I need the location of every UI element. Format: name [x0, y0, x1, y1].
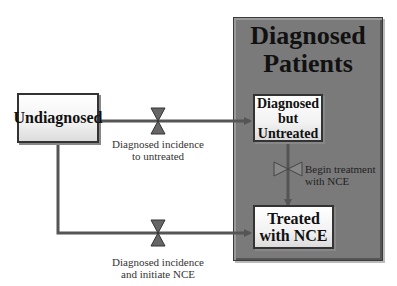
- flow-label-to-untreated: Diagnosed incidence to untreated: [108, 138, 208, 162]
- stock-undiagnosed: Undiagnosed: [17, 93, 99, 143]
- stock-diagnosed-untreated: Diagnosed but Untreated: [253, 94, 323, 142]
- flow-label-begin-treatment: Begin treatment with NCE: [305, 163, 385, 187]
- flow-label-initiate: Diagnosed incidence and initiate NCE: [108, 256, 208, 280]
- stock-treated-with-nce: Treated with NCE: [253, 205, 334, 249]
